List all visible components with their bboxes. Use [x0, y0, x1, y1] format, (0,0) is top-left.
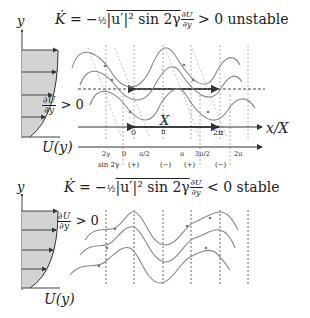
frac-num: ∂U — [181, 10, 194, 20]
equation-rhs: > 0 unstable — [198, 11, 288, 27]
phase-tick-3pi-half: 3π/2 — [195, 151, 210, 158]
shear-den: ∂y — [57, 222, 71, 231]
equation-rhs: < 0 stable — [207, 179, 279, 195]
phase-tick-2pi: 2π — [234, 151, 242, 158]
top-y-axis-label: y — [17, 14, 24, 27]
frac-den: ∂y — [181, 20, 194, 29]
equation-fraction: ∂U∂y — [181, 10, 194, 29]
top-streamlines — [72, 48, 255, 120]
bottom-shear-condition: ∂U∂y > 0 — [57, 212, 99, 231]
phase-tick-pi-half: π/2 — [139, 151, 150, 158]
bottom-velocity-profile — [21, 194, 60, 290]
x-tick-pi: π — [161, 129, 166, 136]
wavelength-label: X — [160, 114, 169, 127]
frac-num: ∂U — [190, 178, 203, 188]
equation-lhs: K̇ = − — [64, 179, 107, 195]
equation-fraction: ∂U∂y — [190, 178, 203, 197]
bottom-y-axis-label: y — [17, 180, 24, 193]
x-axis-label: x/X — [266, 121, 289, 135]
bottom-profile-label: U(y) — [44, 292, 75, 306]
sin-sign-4: (−) — [215, 162, 226, 169]
x-tick-2pi: 2π — [213, 129, 223, 137]
shear-den: ∂y — [42, 106, 56, 115]
top-equation: K̇ = −½|u′|² sin 2γ∂U∂y > 0 unstable — [55, 10, 288, 29]
bottom-streamline-arrows — [98, 217, 212, 268]
equation-lhs: K̇ = − — [55, 11, 98, 27]
top-tilt-lines — [88, 48, 227, 138]
equation-term: |u′|² sin 2γ — [107, 11, 181, 27]
shear-cond: > 0 — [60, 97, 83, 112]
top-profile-label: U(y) — [42, 140, 73, 154]
sin-sign-1: (+) — [128, 162, 139, 169]
phase-tick-0: 0 — [122, 151, 126, 158]
sin-label: sin 2γ — [98, 162, 119, 169]
shear-cond: > 0 — [75, 213, 98, 228]
x-tick-0: 0 — [131, 129, 136, 137]
sin-sign-2: (−) — [160, 162, 171, 169]
bottom-equation: K̇ = −½|u′|² sin 2γ∂U∂y < 0 stable — [64, 178, 279, 197]
equation-half: ½ — [98, 16, 107, 26]
equation-half: ½ — [107, 184, 116, 194]
sin-sign-3: (+) — [184, 162, 195, 169]
top-shear-condition: ∂U∂y > 0 — [42, 96, 84, 115]
diagram-canvas — [0, 0, 310, 318]
equation-term: |u′|² sin 2γ — [116, 179, 190, 195]
phase-tick-2gamma: 2γ — [102, 151, 110, 158]
phase-tick-pi: π — [180, 151, 184, 158]
top-velocity-profile — [21, 30, 60, 138]
frac-den: ∂y — [190, 188, 203, 197]
